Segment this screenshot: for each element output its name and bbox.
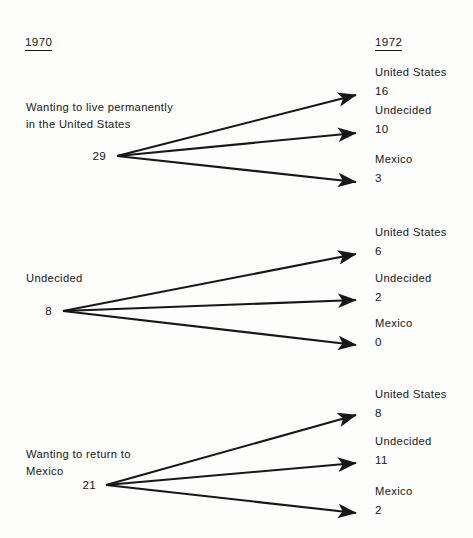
source-value-group-1: 29 bbox=[74, 149, 106, 163]
target-value-2-undecided: 2 bbox=[375, 290, 382, 304]
target-name-1-united-states: United States bbox=[375, 65, 447, 79]
target-name-2-mexico: Mexico bbox=[375, 316, 413, 330]
column-header-1972: 1972 bbox=[375, 35, 402, 51]
target-name-3-undecided: Undecided bbox=[375, 434, 432, 448]
target-name-2-undecided: Undecided bbox=[375, 271, 432, 285]
source-label-group-1: Wanting to live permanently in the Unite… bbox=[26, 99, 173, 133]
target-value-2-united-states: 6 bbox=[375, 244, 382, 258]
source-label-group-2: Undecided bbox=[26, 270, 83, 287]
flow-diagram-canvas: 1970 1972 Wanting to live permanently in… bbox=[0, 0, 473, 538]
target-name-1-undecided: Undecided bbox=[375, 103, 432, 117]
target-value-1-mexico: 3 bbox=[375, 171, 382, 185]
target-name-2-united-states: United States bbox=[375, 225, 447, 239]
source-label-group-3: Wanting to return to Mexico bbox=[26, 446, 131, 480]
target-value-2-mexico: 0 bbox=[375, 335, 382, 349]
arrow-3-mexico bbox=[106, 485, 356, 513]
target-name-1-mexico: Mexico bbox=[375, 152, 413, 166]
source-value-group-3: 21 bbox=[66, 478, 96, 492]
target-value-3-mexico: 2 bbox=[375, 503, 382, 517]
target-name-3-mexico: Mexico bbox=[375, 484, 413, 498]
arrow-2-mexico bbox=[63, 311, 356, 345]
arrow-1-mexico bbox=[117, 156, 356, 182]
target-value-3-united-states: 8 bbox=[375, 406, 382, 420]
arrow-group-2 bbox=[63, 254, 356, 345]
column-header-1970: 1970 bbox=[25, 35, 52, 51]
target-value-1-undecided: 10 bbox=[375, 122, 389, 136]
target-value-3-undecided: 11 bbox=[375, 453, 388, 467]
arrow-1-undecided bbox=[117, 133, 356, 156]
source-value-group-2: 8 bbox=[22, 304, 52, 318]
target-name-3-united-states: United States bbox=[375, 387, 447, 401]
target-value-1-united-states: 16 bbox=[375, 84, 389, 98]
arrow-group-3 bbox=[106, 415, 356, 513]
